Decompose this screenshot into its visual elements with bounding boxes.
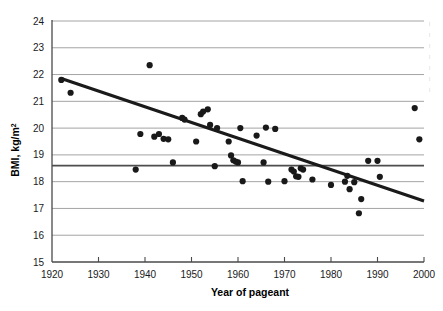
x-tick-label-1980: 1980	[320, 269, 343, 280]
data-point	[260, 159, 266, 165]
chart-figure: 15161718192021222324 1920193019401950196…	[0, 0, 443, 311]
data-point	[58, 77, 64, 83]
data-point	[374, 158, 380, 164]
y-tick-label-17: 17	[33, 203, 45, 214]
data-point	[147, 62, 153, 68]
x-tick-label-1940: 1940	[134, 269, 157, 280]
data-point	[412, 105, 418, 111]
data-point	[181, 116, 187, 122]
data-point	[344, 173, 350, 179]
data-point	[377, 174, 383, 180]
data-point	[272, 126, 278, 132]
y-tick-label-20: 20	[33, 123, 45, 134]
data-point	[300, 167, 306, 173]
x-tick-label-2000: 2000	[413, 269, 436, 280]
x-tick-label-1920: 1920	[41, 269, 64, 280]
data-point	[263, 124, 269, 130]
x-tick-label-1960: 1960	[227, 269, 250, 280]
y-tick-label-23: 23	[33, 42, 45, 53]
data-point	[281, 178, 287, 184]
data-point	[358, 196, 364, 202]
data-point	[295, 174, 301, 180]
y-tick-label-16: 16	[33, 230, 45, 241]
data-point	[356, 210, 362, 216]
data-point	[416, 136, 422, 142]
data-point	[133, 167, 139, 173]
x-tick-label-1990: 1990	[366, 269, 389, 280]
scatter-plot-svg: 15161718192021222324 1920193019401950196…	[0, 0, 443, 311]
data-point	[235, 159, 241, 165]
data-point	[240, 178, 246, 184]
data-point	[351, 179, 357, 185]
data-point	[328, 182, 334, 188]
data-point	[205, 106, 211, 112]
data-point	[342, 179, 348, 185]
data-point	[170, 159, 176, 165]
data-point	[207, 122, 213, 128]
y-tick-label-22: 22	[33, 69, 45, 80]
data-point	[193, 138, 199, 144]
y-tick-label-21: 21	[33, 96, 45, 107]
axis-lines	[52, 20, 424, 262]
x-axis-label: Year of pageant	[211, 286, 290, 298]
data-point	[137, 131, 143, 137]
data-point	[226, 138, 232, 144]
data-point	[214, 125, 220, 131]
x-tick-label-1930: 1930	[87, 269, 110, 280]
data-point	[156, 131, 162, 137]
x-tick-label-1970: 1970	[273, 269, 296, 280]
y-tick-label-15: 15	[33, 257, 45, 268]
data-point	[254, 133, 260, 139]
data-point	[365, 158, 371, 164]
data-point	[265, 179, 271, 185]
data-point	[68, 90, 74, 96]
y-axis-label: BMI, kg/m2	[9, 123, 21, 177]
y-tick-label-24: 24	[33, 16, 45, 27]
x-tick-label-1950: 1950	[180, 269, 203, 280]
x-axis-ticks: 192019301940195019601970198019902000	[41, 257, 436, 280]
data-point	[165, 136, 171, 142]
y-axis-ticks: 15161718192021222324	[33, 16, 45, 268]
data-point	[212, 163, 218, 169]
y-tick-label-19: 19	[33, 149, 45, 160]
y-tick-label-18: 18	[33, 176, 45, 187]
data-point	[237, 125, 243, 131]
data-point	[309, 176, 315, 182]
data-point	[347, 186, 353, 192]
